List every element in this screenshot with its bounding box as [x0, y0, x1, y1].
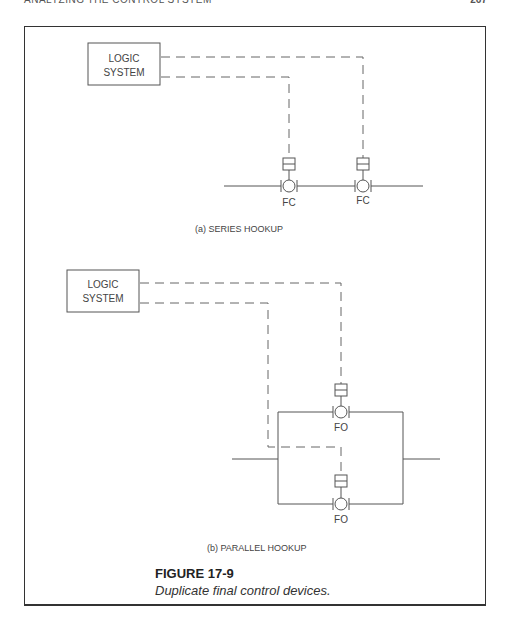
valve-label: FC — [356, 195, 369, 206]
control-diagram: .ln { stroke: #555; stroke-width: 1; fil… — [0, 0, 507, 630]
logic-box-line1: LOGIC — [87, 279, 118, 290]
logic-box-line2: SYSTEM — [82, 293, 123, 304]
valve-label: FC — [282, 197, 295, 208]
signal-line-valve-2 — [161, 57, 363, 158]
figure-title: FIGURE 17-9 — [155, 566, 234, 581]
valve-with-actuator-icon — [281, 158, 297, 192]
parallel-hookup: LOGIC SYSTEM FO — [67, 270, 440, 553]
series-hookup: LOGIC SYSTEM FC FC (a) SERIES — [88, 43, 423, 234]
signal-line-valve-1 — [161, 77, 289, 158]
parallel-caption: (b) PARALLEL HOOKUP — [207, 543, 307, 553]
series-caption: (a) SERIES HOOKUP — [195, 224, 283, 234]
logic-box-line1: LOGIC — [108, 53, 139, 64]
logic-system-box — [67, 270, 139, 312]
valve-label: FO — [334, 514, 348, 525]
valve-label: FO — [334, 422, 348, 433]
valve-with-actuator-icon — [333, 384, 349, 418]
valve-with-actuator-icon — [355, 158, 371, 192]
signal-line-bottom-valve — [140, 303, 341, 475]
logic-system-box — [88, 43, 160, 85]
valve-with-actuator-icon — [333, 475, 349, 510]
logic-box-line2: SYSTEM — [103, 67, 144, 78]
figure-caption: Duplicate final control devices. — [155, 583, 331, 598]
signal-line-top-valve — [140, 283, 341, 384]
